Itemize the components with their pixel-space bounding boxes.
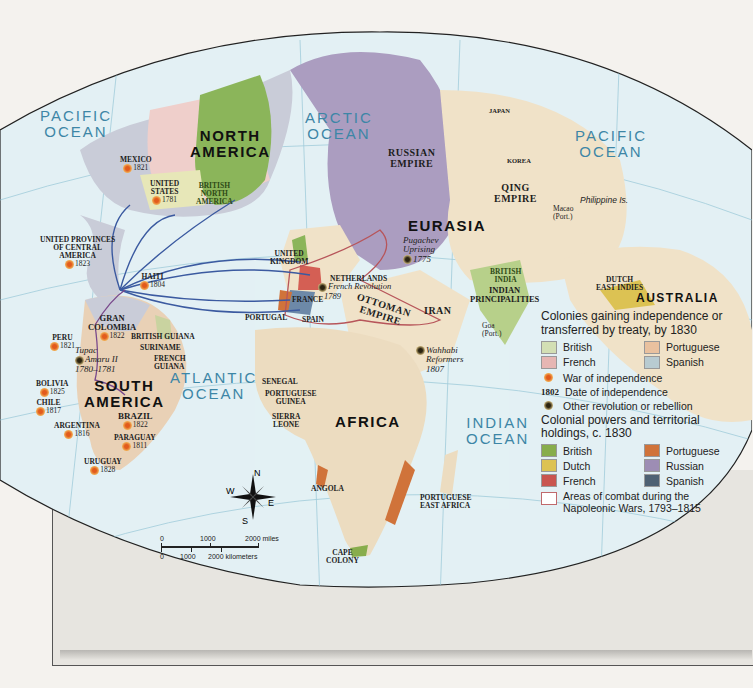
peru-label: PERU1821 xyxy=(50,334,75,351)
british-india-label: BRITISHINDIA xyxy=(490,268,521,284)
legend-colonial-powers: British Portuguese Dutch Russian French … xyxy=(541,444,747,487)
united-states-label: UNITEDSTATES1781 xyxy=(150,180,179,205)
swatch-portuguese xyxy=(644,444,660,457)
war-of-independence-icon xyxy=(36,407,45,416)
africa-label: AFRICA xyxy=(335,414,401,430)
swatch-spanish xyxy=(644,474,660,487)
legend-item-french: French xyxy=(541,474,644,487)
war-of-independence-icon xyxy=(90,466,99,475)
atlantic-ocean-label: ATLANTICOCEAN xyxy=(170,370,257,402)
cape-colony-label: CAPECOLONY xyxy=(326,549,359,565)
united-provinces-label: UNITED PROVINCESOF CENTRALAMERICA1823 xyxy=(40,236,115,269)
swatch-british xyxy=(541,444,557,457)
scale-bar: 0 1000 2000 miles 0 1000 2000 kilometers xyxy=(160,535,290,563)
south-america-label: SOUTHAMERICA xyxy=(84,378,165,410)
war-of-independence-icon xyxy=(123,164,132,173)
macao-label: Macao(Port.) xyxy=(553,205,573,221)
legend-item-portuguese: Portuguese xyxy=(644,444,747,457)
legend-item-dutch: Dutch xyxy=(541,459,644,472)
war-of-independence-icon xyxy=(140,281,149,290)
indian-principalities-label: INDIANPRINCIPALITIES xyxy=(470,286,539,304)
bolivia-label: BOLIVIA1825 xyxy=(36,380,69,397)
russian-empire-label: RUSSIANEMPIRE xyxy=(388,148,435,169)
indian-ocean-label: INDIANOCEAN xyxy=(466,415,529,447)
swatch-portuguese-light xyxy=(644,341,660,354)
legend-date-of-independence: 1802Date of independence xyxy=(541,386,747,398)
angola-label: ANGOLA xyxy=(311,485,344,493)
map-legend: Colonies gaining independence or transfe… xyxy=(541,310,747,516)
war-of-independence-icon xyxy=(152,196,161,205)
legend-section2-title: Colonial powers and territorial holdings… xyxy=(541,414,747,442)
war-of-independence-icon xyxy=(544,373,553,382)
brazil-label: BRAZIL1822 xyxy=(118,412,153,430)
scale-miles-2000: 2000 miles xyxy=(245,535,279,542)
haiti-label: HAITI1804 xyxy=(140,273,165,290)
rebellion-icon xyxy=(403,255,412,264)
scale-km-0: 0 xyxy=(160,553,164,560)
war-of-independence-icon xyxy=(122,442,131,451)
pacific-ocean-east-label: PACIFICOCEAN xyxy=(575,128,647,160)
north-america-label: NORTHAMERICA xyxy=(190,128,271,160)
argentina-label: ARGENTINA1816 xyxy=(54,422,100,439)
portugal-label: PORTUGAL xyxy=(245,314,287,322)
qing-empire-label: QINGEMPIRE xyxy=(494,183,537,204)
rebellion-icon xyxy=(416,346,425,355)
legend-independence-colors: British Portuguese French Spanish xyxy=(541,341,747,369)
pugachev-uprising-label: PugachevUprising1775 xyxy=(403,236,438,264)
legend-combat-areas: Areas of combat during the Napoleonic Wa… xyxy=(541,490,747,514)
compass-e: E xyxy=(268,498,274,508)
philippine-islands-label: Philippine Is. xyxy=(580,196,628,205)
war-of-independence-icon xyxy=(65,260,74,269)
legend-item-portuguese-independent: Portuguese xyxy=(644,341,747,354)
swatch-spanish-light xyxy=(644,356,660,369)
war-of-independence-icon xyxy=(64,430,73,439)
goa-label: Goa(Port.) xyxy=(482,322,501,338)
legend-other-revolution: Other revolution or rebellion xyxy=(541,400,747,412)
sierra-leone-label: SIERRALEONE xyxy=(272,413,300,429)
legend-section1-title: Colonies gaining independence or transfe… xyxy=(541,310,747,338)
gran-colombia-label: GRANCOLOMBIA1822 xyxy=(88,314,136,341)
scale-km-1000: 1000 xyxy=(180,553,196,560)
eurasia-label: EURASIA xyxy=(408,218,486,234)
war-of-independence-icon xyxy=(123,421,132,430)
arctic-ocean-label: ARCTICOCEAN xyxy=(305,110,373,142)
legend-item-british: British xyxy=(541,444,644,457)
france-label: FRANCE xyxy=(292,296,323,304)
british-guiana-label: BRITISH GUIANA xyxy=(131,333,195,341)
swatch-russian xyxy=(644,459,660,472)
legend-item-spanish-independent: Spanish xyxy=(644,356,747,369)
war-of-independence-icon xyxy=(50,342,59,351)
japan-label: JAPAN xyxy=(489,108,510,115)
paraguay-label: PARAGUAY1811 xyxy=(114,434,156,451)
swatch-british-light xyxy=(541,341,557,354)
legend-item-spanish: Spanish xyxy=(644,474,747,487)
legend-item-british-independent: British xyxy=(541,341,644,354)
french-guiana-label: FRENCHGUIANA xyxy=(154,355,186,371)
wahhabi-reformers-label: WahhabiReformers1807 xyxy=(416,346,464,374)
suriname-label: SURINAME xyxy=(140,344,181,352)
legend-item-russian: Russian xyxy=(644,459,747,472)
war-of-independence-icon xyxy=(100,332,109,341)
legend-item-french-independent: French xyxy=(541,356,644,369)
portuguese-guinea-label: PORTUGUESEGUINEA xyxy=(265,390,316,406)
chile-label: CHILE1817 xyxy=(36,399,61,416)
pacific-ocean-west-label: PACIFICOCEAN xyxy=(40,108,112,140)
scale-km-2000: 2000 kilometers xyxy=(208,553,257,560)
compass-star-icon xyxy=(228,472,278,522)
compass-n: N xyxy=(254,468,261,478)
swatch-french xyxy=(541,474,557,487)
dutch-east-indies-label: DUTCHEAST INDIES xyxy=(596,276,643,292)
korea-label: KOREA xyxy=(507,158,531,165)
compass-w: W xyxy=(226,486,235,496)
swatch-french-light xyxy=(541,356,557,369)
swatch-combat-areas xyxy=(541,492,557,505)
compass-s: S xyxy=(242,516,248,526)
tupac-amaru-label: TupacAmaru II1780–1781 xyxy=(75,346,118,374)
compass-rose: N W E S xyxy=(228,472,278,524)
united-kingdom-label: UNITEDKINGDOM xyxy=(270,250,308,266)
mexico-label: MEXICO1821 xyxy=(120,156,152,173)
iran-label: IRAN xyxy=(424,306,452,317)
australia-label: AUSTRALIA xyxy=(636,292,719,305)
uruguay-label: URUGUAY1828 xyxy=(84,458,122,475)
